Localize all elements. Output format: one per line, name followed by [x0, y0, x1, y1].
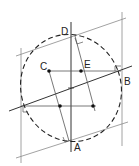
lower-left-dot	[58, 104, 62, 108]
point-e-dot	[79, 69, 83, 73]
right-angle-marker-d	[75, 38, 83, 44]
lower-right-dot	[91, 104, 95, 108]
bottom-tangent-line	[16, 122, 128, 158]
label-d: D	[61, 26, 68, 37]
ellipse-diagram: D C E B A	[0, 0, 139, 166]
diagram-canvas: D C E B A	[0, 0, 139, 166]
point-c-dot	[47, 69, 51, 73]
slant-line-d-e	[75, 36, 95, 111]
label-c: C	[40, 61, 47, 72]
label-e: E	[84, 59, 91, 70]
label-a: A	[74, 142, 81, 153]
right-angle-marker-a	[63, 137, 71, 142]
label-b: B	[124, 76, 131, 87]
